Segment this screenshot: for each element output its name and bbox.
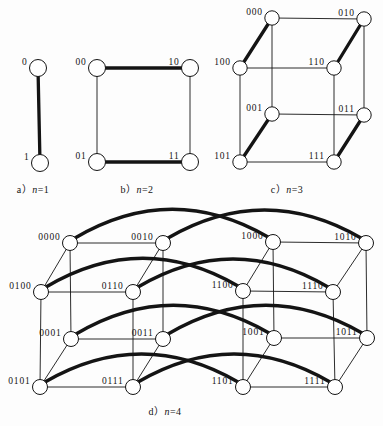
- node-1101: [236, 380, 251, 395]
- node-1110: [326, 285, 341, 300]
- edge-0011-0111: [133, 339, 163, 387]
- node-0100: [34, 285, 49, 300]
- edge-1110-1111: [333, 292, 335, 387]
- node-label-0: 0: [22, 57, 28, 67]
- edge-001-011: [272, 114, 364, 115]
- edge-1010-1110: [333, 243, 366, 292]
- edge-1010-1011: [366, 243, 367, 338]
- node-100: [233, 61, 247, 75]
- node-label-0100: 0100: [9, 281, 31, 291]
- figure-canvas: 0100100111000010100110001011101111000000…: [0, 0, 383, 426]
- node-label-1001: 1001: [242, 327, 264, 337]
- node-label-11: 11: [169, 151, 180, 161]
- node-0001: [64, 332, 79, 347]
- node-010: [357, 12, 371, 26]
- node-1011: [360, 331, 375, 346]
- hypercube-figure: 0100100111000010100110001011101111000000…: [0, 0, 383, 426]
- arc-0111-1111: [138, 354, 330, 382]
- arc-0101-1101: [45, 354, 238, 382]
- arc-0100-1100: [46, 258, 238, 287]
- node-label-0001: 0001: [39, 328, 61, 338]
- node-10: [182, 60, 199, 77]
- node-0010: [156, 236, 171, 251]
- caption-n1: a）n=1: [17, 181, 50, 196]
- edge-0001-0101: [40, 339, 71, 387]
- node-label-0011: 0011: [132, 328, 154, 338]
- node-label-1101: 1101: [212, 376, 234, 386]
- caption-n2-prefix: b）: [120, 184, 136, 195]
- panel-hypercube-n1: 01: [22, 57, 49, 172]
- node-0111: [126, 380, 141, 395]
- edge-1000-1100: [243, 242, 273, 291]
- edge-1011-1111: [335, 338, 367, 387]
- edge-0100-0101: [40, 292, 41, 387]
- panel-hypercube-n4: 0000001010001010010001101100111000010011…: [8, 209, 374, 394]
- caption-n3-prefix: c）: [271, 184, 286, 195]
- caption-n3-rest: =3: [292, 184, 304, 195]
- edge-011-111: [334, 115, 364, 162]
- node-label-100: 100: [214, 57, 231, 67]
- node-label-1110: 1110: [302, 281, 324, 291]
- node-1010: [359, 236, 374, 251]
- edge-0000-0100: [41, 243, 70, 292]
- caption-n1-rest: =1: [38, 184, 50, 195]
- node-011: [357, 108, 371, 122]
- node-0101: [33, 380, 48, 395]
- node-0: [30, 60, 47, 77]
- edge-1100-1110: [243, 291, 333, 292]
- edge-000-100: [240, 18, 272, 68]
- node-1: [32, 155, 49, 172]
- node-label-010: 010: [338, 8, 355, 18]
- node-101: [233, 155, 247, 169]
- node-label-101: 101: [214, 151, 231, 161]
- edge-010-110: [334, 19, 364, 68]
- edge-0-1: [38, 68, 40, 163]
- edge-1000-1001: [273, 242, 274, 338]
- node-label-1111: 1111: [304, 376, 325, 386]
- node-11: [182, 154, 199, 171]
- node-label-0111: 0111: [102, 376, 124, 386]
- node-label-000: 000: [246, 7, 263, 17]
- node-0000: [63, 236, 78, 251]
- node-label-1000: 1000: [241, 231, 263, 241]
- edge-0000-0001: [70, 243, 71, 339]
- edge-1001-1101: [243, 338, 274, 387]
- node-00: [89, 60, 106, 77]
- node-label-011: 011: [338, 104, 354, 114]
- edge-0010-0110: [133, 243, 163, 292]
- node-label-1010: 1010: [334, 232, 356, 242]
- node-label-0000: 0000: [38, 232, 60, 242]
- node-0011: [156, 332, 171, 347]
- caption-n2-rest: =2: [142, 184, 154, 195]
- caption-n1-prefix: a）: [17, 184, 32, 195]
- node-1100: [236, 284, 251, 299]
- panel-hypercube-n2: 00100111: [75, 57, 198, 171]
- node-label-1: 1: [24, 152, 30, 162]
- node-0110: [126, 285, 141, 300]
- edge-000-010: [272, 18, 364, 19]
- node-label-0101: 0101: [8, 376, 30, 386]
- node-01: [89, 154, 106, 171]
- node-111: [327, 155, 341, 169]
- node-label-1100: 1100: [212, 280, 234, 290]
- node-label-00: 00: [75, 57, 86, 67]
- node-000: [265, 11, 279, 25]
- panel-hypercube-n3: 000010100110001011101111: [214, 7, 371, 169]
- node-label-111: 111: [309, 151, 325, 161]
- caption-n2: b）n=2: [120, 181, 153, 196]
- caption-n3: c）n=3: [271, 181, 304, 196]
- edge-001-101: [240, 114, 272, 162]
- node-1001: [267, 331, 282, 346]
- caption-n4: d）n=4: [148, 403, 181, 418]
- node-label-1011: 1011: [336, 327, 358, 337]
- node-110: [327, 61, 341, 75]
- node-label-10: 10: [168, 57, 179, 67]
- caption-n4-rest: =4: [170, 406, 182, 417]
- node-label-01: 01: [75, 151, 86, 161]
- node-001: [265, 107, 279, 121]
- node-label-110: 110: [308, 57, 324, 67]
- node-1000: [266, 235, 281, 250]
- caption-n4-prefix: d）: [148, 406, 164, 417]
- node-1111: [328, 380, 343, 395]
- node-label-001: 001: [246, 103, 263, 113]
